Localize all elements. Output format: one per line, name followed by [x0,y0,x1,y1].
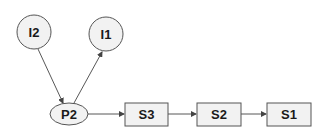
node-i2-label: I2 [29,25,40,40]
node-s3-label: S3 [139,107,155,122]
edge-i2-to-p2 [38,49,63,103]
node-i1-label: I1 [101,27,112,42]
node-i1[interactable]: I1 [89,17,123,51]
flow-diagram: I2 I1 P2 S3 S2 S1 [0,0,327,136]
node-p2-label: P2 [61,107,77,122]
node-i2[interactable]: I2 [17,15,51,49]
edge-p2-to-i1 [74,52,102,103]
node-s1-label: S1 [281,107,297,122]
node-s1[interactable]: S1 [267,103,311,126]
node-s2[interactable]: S2 [197,103,241,126]
node-s2-label: S2 [211,107,227,122]
node-s3[interactable]: S3 [125,103,168,126]
node-p2[interactable]: P2 [50,103,88,125]
